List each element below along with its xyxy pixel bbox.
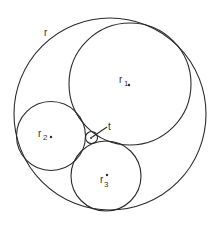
center-dot-r2: [50, 136, 52, 138]
label-t: t: [108, 121, 111, 132]
label-r1: r: [119, 74, 123, 85]
label-r2-sub: 2: [43, 133, 48, 142]
label-r2: r: [38, 128, 42, 139]
label-r1-sub: 1: [124, 79, 129, 88]
circle-r3: [71, 141, 141, 211]
label-outer: r: [44, 27, 48, 38]
center-dot-r3: [106, 174, 108, 176]
label-r3-sub: 3: [104, 180, 109, 189]
outer-circle: [14, 18, 206, 210]
diagram-canvas: r r 1 r 2 r 3 t: [0, 0, 218, 227]
center-dot-t: [90, 137, 92, 139]
circles-diagram: r r 1 r 2 r 3 t: [0, 0, 218, 227]
